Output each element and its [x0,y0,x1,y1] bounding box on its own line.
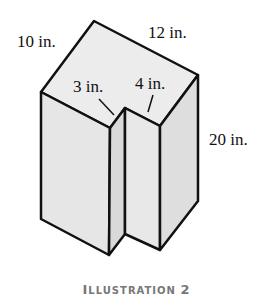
label-width: 12 in. [148,24,187,41]
notch-back-face [125,108,160,250]
caption-rest: LLUSTRATION [88,285,176,296]
label-notch-depth: 4 in. [135,75,165,92]
caption-number: 2 [180,282,190,297]
label-notch-width: 3 in. [73,78,103,95]
label-height: 20 in. [209,131,248,148]
label-depth: 10 in. [17,33,56,50]
figure-caption: ILLUSTRATION 2 [0,282,273,297]
notch-side-face [109,108,125,255]
